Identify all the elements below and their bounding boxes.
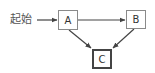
edge-a-to-c (69, 30, 91, 48)
start-label: 起始 (10, 12, 32, 28)
node-a-label: A (65, 15, 72, 26)
edge-b-to-c (113, 29, 134, 48)
node-b: B (126, 10, 146, 29)
node-c: C (92, 49, 112, 69)
node-b-label: B (133, 14, 140, 25)
node-c-label: C (99, 54, 106, 65)
node-a: A (58, 10, 78, 30)
